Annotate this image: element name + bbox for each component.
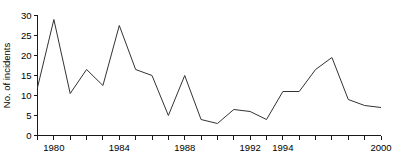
chart-canvas: 051015202530 198019841988199219942000 No…: [0, 0, 400, 167]
y-axis-tick-labels: 051015202530: [21, 10, 32, 141]
x-tick-label: 1984: [109, 142, 130, 153]
y-tick-label: 20: [21, 50, 32, 61]
x-tick-label: 1980: [43, 142, 64, 153]
y-axis-ticks: [34, 16, 38, 136]
y-tick-label: 25: [21, 30, 32, 41]
y-tick-label: 5: [26, 110, 31, 121]
x-tick-label: 2000: [370, 142, 391, 153]
x-tick-label: 1988: [174, 142, 195, 153]
x-axis-ticks: [38, 136, 382, 140]
y-axis-title: No. of incidents: [1, 43, 12, 109]
y-tick-label: 15: [21, 70, 32, 81]
incidents-line-chart: 051015202530 198019841988199219942000 No…: [0, 0, 400, 167]
x-tick-label: 1992: [240, 142, 261, 153]
x-axis-tick-labels: 198019841988199219942000: [43, 142, 391, 153]
y-tick-label: 0: [26, 130, 31, 141]
incidents-data-line: [38, 20, 382, 124]
x-tick-label: 1994: [272, 142, 293, 153]
y-tick-label: 10: [21, 90, 32, 101]
y-tick-label: 30: [21, 10, 32, 21]
